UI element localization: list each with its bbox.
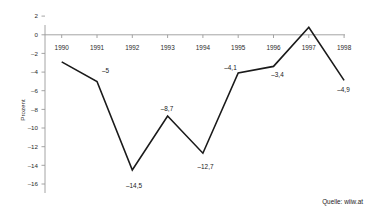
y-tick-label: –14 [28, 162, 39, 169]
y-tick-label: 2 [35, 12, 39, 19]
x-tick-label-1990: 1990 [55, 44, 70, 51]
value-label-1991: –5 [102, 67, 110, 74]
value-label-1995: –4,1 [224, 64, 237, 71]
y-tick-label: –8 [31, 106, 38, 113]
y-tick-label: 0 [35, 31, 39, 38]
x-tick-label-1993: 1993 [160, 44, 175, 51]
y-tick-label: –10 [28, 124, 39, 131]
line-chart: 2 0 –2 –4 –6 –8 –10 –12 –14 –16 Prozent … [0, 0, 372, 216]
x-tick-label-1995: 1995 [231, 44, 246, 51]
y-axis-ticks [42, 16, 46, 184]
y-tick-label: –6 [31, 87, 38, 94]
x-tick-label-1991: 1991 [90, 44, 105, 51]
y-axis-title: Prozent [19, 99, 26, 121]
y-tick-label: –16 [28, 180, 39, 187]
value-label-1994: –12,7 [198, 163, 214, 170]
y-tick-label: –4 [31, 68, 38, 75]
value-label-1993: –8,7 [161, 105, 174, 112]
value-label-1996: –3,4 [271, 71, 284, 78]
value-label-1998: –4,9 [337, 86, 350, 93]
x-tick-label-1997: 1997 [302, 44, 317, 51]
x-tick-label-1992: 1992 [125, 44, 140, 51]
source-note: Quelle: wiiw.at [322, 198, 363, 206]
chart-container: 2 0 –2 –4 –6 –8 –10 –12 –14 –16 Prozent … [0, 0, 372, 216]
x-tick-label-1996: 1996 [266, 44, 281, 51]
x-tick-label-1994: 1994 [196, 44, 211, 51]
y-tick-label: –12 [28, 143, 39, 150]
y-tick-label: –2 [31, 50, 38, 57]
x-tick-label-1998: 1998 [337, 44, 352, 51]
value-label-1992: –14,5 [126, 182, 142, 189]
